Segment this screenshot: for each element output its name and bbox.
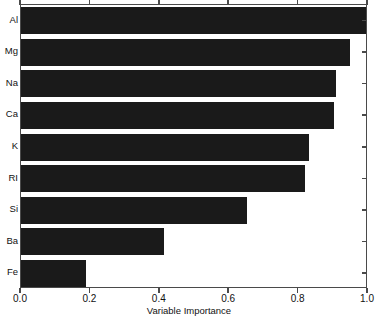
bar-row [21,228,367,255]
x-axis-title: Variable Importance [0,306,378,316]
y-axis-label-k: K [0,141,18,151]
bar-row [21,102,367,129]
bar-row [21,134,367,161]
y-tick-right [362,178,367,180]
bar-ba [21,228,164,255]
x-tick-top-0.6 [227,0,229,5]
bar-row [21,165,367,192]
bar-row [21,39,367,66]
y-axis-label-ba: Ba [0,236,18,246]
y-tick-right [362,209,367,211]
y-axis-label-si: Si [0,204,18,214]
x-tick-label-0.0: 0.0 [0,294,40,304]
plot-area [20,4,367,288]
bar-si [21,197,247,224]
y-axis-label-mg: Mg [0,46,18,56]
x-tick-top-0.8 [297,0,299,5]
y-axis-label-ca: Ca [0,109,18,119]
x-tick-label-0.2: 0.2 [69,294,109,304]
y-tick-right [362,20,367,22]
bar-ri [21,165,305,192]
bar-al [21,7,367,34]
bar-na [21,70,336,97]
y-axis-label-al: Al [0,15,18,25]
x-tick-label-0.4: 0.4 [139,294,179,304]
y-tick-right [362,51,367,53]
y-axis-label-fe: Fe [0,267,18,277]
bar-row [21,70,367,97]
variable-importance-bar-chart: AlMgNaCaKRISiBaFe 0.00.20.40.60.81.0 Var… [0,0,378,320]
y-tick-right [362,83,367,85]
x-tick-top-0.4 [158,0,160,5]
x-tick-top-0.2 [89,0,91,5]
bar-row [21,197,367,224]
y-axis-label-na: Na [0,78,18,88]
y-tick-right [362,241,367,243]
bar-mg [21,39,350,66]
bar-k [21,134,309,161]
y-axis-label-ri: RI [0,173,18,183]
x-tick-top-1.0 [366,0,368,5]
y-tick-right [362,146,367,148]
y-tick-right [362,272,367,274]
x-tick-label-0.6: 0.6 [208,294,248,304]
bar-ca [21,102,334,129]
x-tick-top-0.0 [19,0,21,5]
bar-row [21,260,367,287]
y-tick-right [362,114,367,116]
x-tick-label-1.0: 1.0 [347,294,378,304]
bar-row [21,7,367,34]
x-tick-label-0.8: 0.8 [278,294,318,304]
bar-fe [21,260,86,287]
